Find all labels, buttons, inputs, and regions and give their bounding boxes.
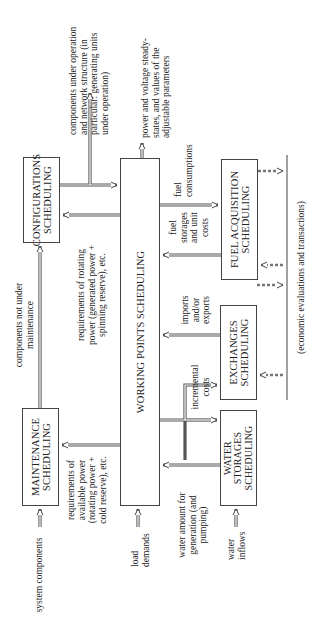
maintenance-scheduling-box: MAINTENANCE SCHEDULING <box>22 408 59 506</box>
exchanges-scheduling-box: EXCHANGES SCHEDULING <box>220 305 257 400</box>
label-components-under-operation: components under operation and network s… <box>68 5 110 135</box>
label-components-not-under-maintenance: components not under maintenance <box>14 270 35 380</box>
label-available-power-requirements: requirements of available power (rotatin… <box>66 445 108 535</box>
label-economic-evaluations: (economic evaluations and transactions) <box>296 160 307 395</box>
label-fuel-consumptions: fuel consumptions <box>173 137 194 197</box>
scheduling-diagram: CONFIGURATIONS SCHEDULING MAINTENANCE SC… <box>0 0 315 635</box>
fuel-acquisition-scheduling-box: FUEL ACQUISITION SCHEDULING <box>221 159 258 280</box>
label-water-inflows: water inflows <box>226 525 247 560</box>
working-points-scheduling-box: WORKING POINTS SCHEDULING <box>120 158 160 506</box>
label-imports-exports: imports and/or exports <box>180 290 212 330</box>
label-power-voltage: power and voltage steady- states, and va… <box>140 8 172 138</box>
water-storages-scheduling-box: WATER STORAGES SCHEDULING <box>220 410 257 506</box>
label-system-components: system components <box>34 527 45 623</box>
label-water-amount: water amount for generation (and pumping… <box>177 480 209 570</box>
label-fuel-storages: fuel storages and unit costs <box>168 205 210 250</box>
label-rotating-power-requirements: requirements of rotating power (generate… <box>76 225 108 365</box>
label-incremental-costs: incremental costs <box>190 357 211 417</box>
configurations-scheduling-box: CONFIGURATIONS SCHEDULING <box>23 157 60 243</box>
label-load-demands: load demands <box>130 527 151 567</box>
